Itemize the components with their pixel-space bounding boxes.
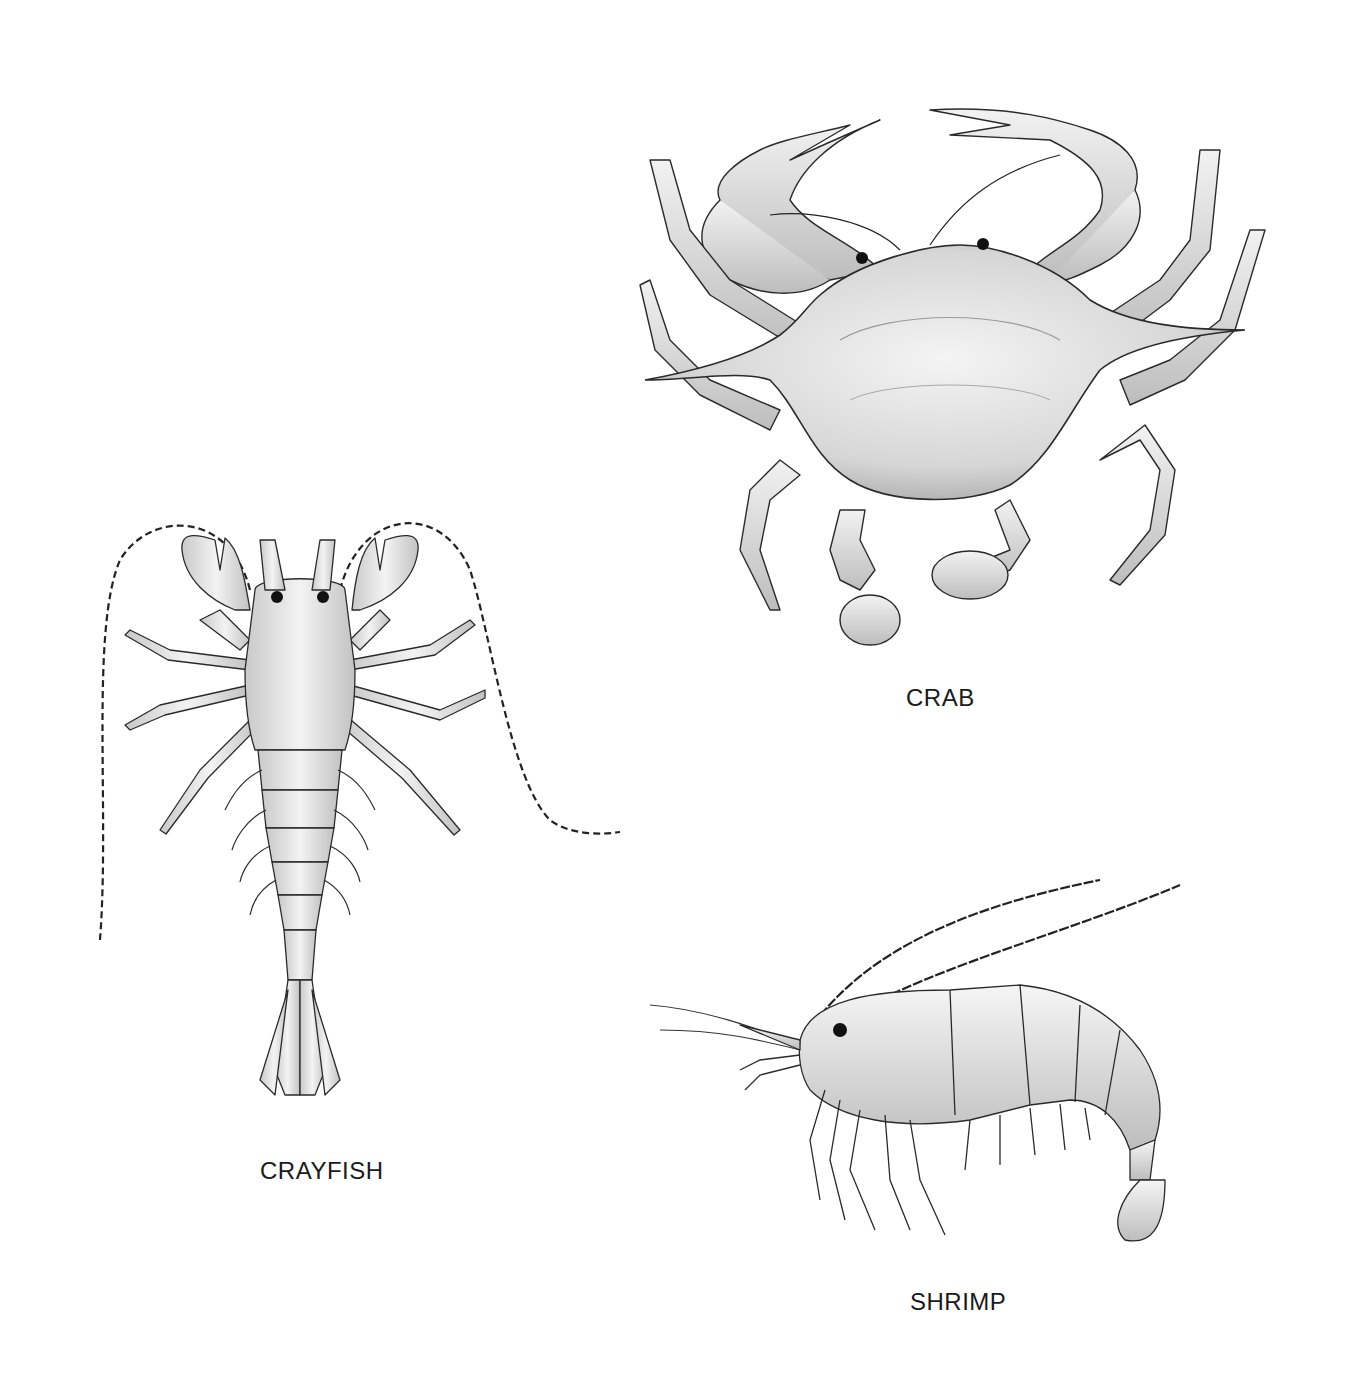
crab-illustration <box>630 80 1270 660</box>
crayfish-drawing <box>90 510 630 1120</box>
crayfish-illustration <box>90 510 630 1120</box>
shrimp-label: SHRIMP <box>910 1288 1006 1316</box>
shrimp-drawing <box>650 880 1190 1260</box>
shrimp-illustration <box>650 880 1190 1260</box>
crayfish-label: CRAYFISH <box>260 1157 384 1185</box>
crab-label: CRAB <box>906 684 975 712</box>
crab-drawing <box>630 80 1270 660</box>
